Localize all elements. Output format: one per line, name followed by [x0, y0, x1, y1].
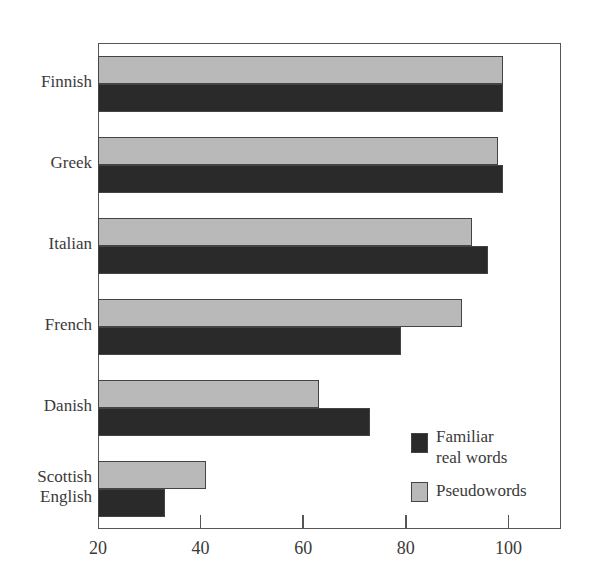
bar-italian-real-words [98, 246, 488, 274]
legend-label-pseudo: Pseudowords [436, 481, 527, 501]
category-label-danish: Danish [44, 396, 92, 416]
legend-swatch-pseudo [411, 482, 428, 502]
bar-scottish-english-pseudowords [98, 461, 206, 489]
category-label-line: Greek [50, 153, 92, 173]
x-tick [302, 515, 304, 529]
x-tick [508, 515, 510, 529]
bar-chart: FinnishGreekItalianFrenchDanishScottishE… [0, 0, 596, 584]
bar-french-pseudowords [98, 299, 462, 327]
bar-greek-pseudowords [98, 137, 498, 165]
category-label-line: Scottish [37, 467, 92, 487]
category-label-line: English [37, 487, 92, 507]
category-label-french: French [45, 315, 92, 335]
x-tick-label: 60 [273, 538, 333, 559]
bar-italian-pseudowords [98, 218, 472, 246]
x-tick-label: 40 [171, 538, 231, 559]
x-tick [405, 515, 407, 529]
x-tick-label: 80 [376, 538, 436, 559]
x-tick-label: 100 [478, 538, 538, 559]
category-label-italian: Italian [49, 234, 92, 254]
legend-swatch-real [411, 433, 428, 453]
x-tick [200, 515, 202, 529]
bar-danish-pseudowords [98, 380, 319, 408]
bar-scottish-english-real-words [98, 489, 165, 517]
bar-greek-real-words [98, 165, 503, 193]
category-label-line: Finnish [41, 72, 92, 92]
bar-finnish-real-words [98, 84, 503, 112]
bar-finnish-pseudowords [98, 56, 503, 84]
legend-label-real-line1: Familiar [436, 427, 494, 447]
bar-danish-real-words [98, 408, 370, 436]
category-label-line: Danish [44, 396, 92, 416]
category-label-scottish-english: ScottishEnglish [37, 467, 92, 507]
category-label-line: Italian [49, 234, 92, 254]
category-label-finnish: Finnish [41, 72, 92, 92]
x-tick-label: 20 [68, 538, 128, 559]
category-label-line: French [45, 315, 92, 335]
bar-french-real-words [98, 327, 401, 355]
legend-label-real-line2: real words [436, 448, 507, 468]
category-label-greek: Greek [50, 153, 92, 173]
